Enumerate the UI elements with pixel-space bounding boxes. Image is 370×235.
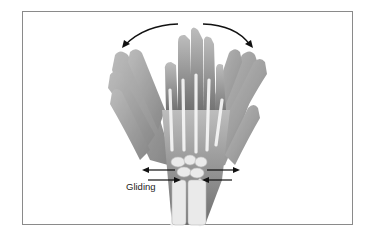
left-hand-ghost	[108, 49, 168, 165]
gliding-label: Gliding	[126, 181, 156, 192]
glide-arrowhead-left-top	[142, 167, 149, 173]
glide-arrowhead-right-top	[233, 167, 240, 173]
radial-deviation-arrow	[125, 24, 178, 45]
hand-illustration	[0, 0, 370, 235]
